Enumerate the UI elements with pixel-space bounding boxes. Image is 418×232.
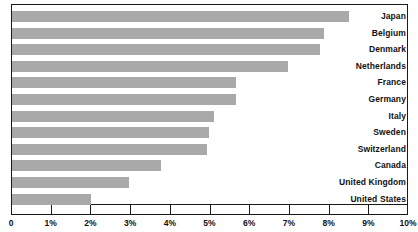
x-tick-label: 8% <box>322 218 334 229</box>
category-label: France <box>300 77 406 87</box>
x-tick-mark <box>51 205 52 214</box>
x-tick-mark <box>130 205 131 214</box>
category-label: Italy <box>300 111 406 121</box>
x-tick-mark <box>249 205 250 214</box>
bar <box>12 111 214 122</box>
bar <box>12 194 91 205</box>
x-tick-mark <box>407 205 408 214</box>
bar <box>12 28 324 39</box>
x-tick-label: 4% <box>164 218 176 229</box>
category-label: Japan <box>300 11 406 21</box>
bar <box>12 144 207 155</box>
x-tick-mark <box>170 205 171 214</box>
bar <box>12 177 129 188</box>
x-tick-label: 2% <box>84 218 96 229</box>
bar <box>12 44 320 55</box>
x-tick-mark <box>368 205 369 214</box>
x-tick-mark <box>289 205 290 214</box>
category-label: Denmark <box>300 44 406 54</box>
category-label: Switzerland <box>300 144 406 154</box>
x-tick-label: 10% <box>399 218 416 229</box>
x-tick-label: 7% <box>283 218 295 229</box>
x-tick-label: 0 <box>9 218 14 229</box>
x-axis: 01%2%3%4%5%6%7%8%9%10% <box>11 205 408 232</box>
x-tick-mark <box>329 205 330 214</box>
category-label: Germany <box>300 94 406 104</box>
x-tick-label: 9% <box>362 218 374 229</box>
category-label: Netherlands <box>300 61 406 71</box>
x-tick-mark <box>210 205 211 214</box>
bar <box>12 94 236 105</box>
bar <box>12 160 161 171</box>
x-tick-label: 6% <box>243 218 255 229</box>
x-tick-mark <box>11 205 12 214</box>
category-label: Belgium <box>300 28 406 38</box>
x-tick-label: 1% <box>45 218 57 229</box>
bar <box>12 61 288 72</box>
x-axis-line <box>11 214 408 215</box>
x-tick-label: 5% <box>203 218 215 229</box>
x-tick-mark <box>90 205 91 214</box>
bar <box>12 11 349 22</box>
category-label: Canada <box>300 160 406 170</box>
category-label: Sweden <box>300 127 406 137</box>
x-tick-label: 3% <box>124 218 136 229</box>
category-axis-labels: JapanBelgiumDenmarkNetherlandsFranceGerm… <box>300 4 410 205</box>
bar-chart: JapanBelgiumDenmarkNetherlandsFranceGerm… <box>0 0 418 232</box>
bar <box>12 77 236 88</box>
category-label: United States <box>300 194 406 204</box>
bar <box>12 127 209 138</box>
category-label: United Kingdom <box>300 177 406 187</box>
